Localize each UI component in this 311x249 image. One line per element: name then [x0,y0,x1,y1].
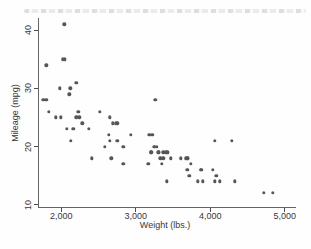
data-point [68,93,71,96]
data-point [147,162,150,165]
data-point [108,139,111,142]
data-point [215,174,218,177]
x-axis-title: Weight (lbs.) [140,221,190,230]
data-point [230,139,233,142]
y-tick-label: 30 [24,83,33,93]
data-point [218,180,221,183]
data-point [110,156,113,159]
data-point [186,156,189,159]
data-point [160,162,163,165]
data-point [45,63,48,66]
x-axis [38,207,296,208]
x-tick-label: 4,000 [199,212,222,221]
y-tick-mark [34,146,38,147]
data-point [213,139,216,142]
data-point [63,58,66,61]
data-point [87,127,90,130]
data-point [188,174,191,177]
y-tick-mark [34,30,38,31]
data-point [262,191,265,194]
y-tick-label: 40 [24,25,33,35]
data-point [121,162,124,165]
data-point [165,180,168,183]
cropped-text-artifact [24,9,306,13]
data-point [77,110,80,113]
data-point [45,98,48,101]
data-point [150,133,153,136]
data-point [98,110,101,113]
data-point [211,168,214,171]
data-point [189,162,192,165]
data-point [121,145,124,148]
data-point [153,98,156,101]
y-axis-title: Mileage (mpg) [11,84,20,142]
y-tick-mark [34,204,38,205]
data-point [271,191,274,194]
data-point [63,23,66,26]
data-point [108,116,111,119]
scatter-plot-figure: 2,0003,0004,0005,000 10203040 Mileage (m… [0,0,311,249]
data-point [69,87,72,90]
x-tick-label: 2,000 [50,212,73,221]
y-tick-mark [34,88,38,89]
data-point [72,127,75,130]
x-tick-label: 5,000 [274,212,297,221]
data-point [103,145,106,148]
data-point [90,156,93,159]
y-tick-label: 10 [24,200,33,210]
data-point [201,180,204,183]
data-point [169,156,172,159]
data-point [74,81,77,84]
data-point [80,122,83,125]
data-point [47,110,50,113]
data-point [69,139,72,142]
data-point [54,116,57,119]
data-point [77,116,80,119]
data-point [155,145,158,148]
data-point [58,87,61,90]
data-point [186,168,189,171]
y-axis [38,18,39,208]
y-tick-label: 20 [24,141,33,151]
data-point [162,156,165,159]
data-point [65,127,68,130]
data-point [129,133,132,136]
data-point [196,180,199,183]
data-point [59,116,62,119]
data-point [233,180,236,183]
data-point [115,139,118,142]
data-point [179,156,182,159]
data-point [213,180,216,183]
data-point [107,133,110,136]
